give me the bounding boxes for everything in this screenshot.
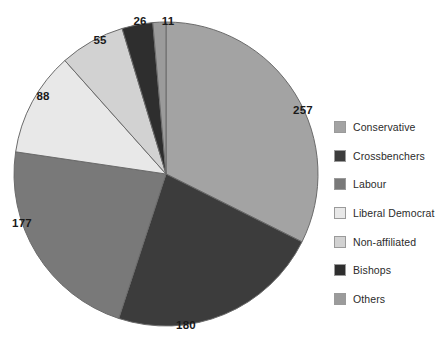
slice-value-label: 88 — [36, 90, 49, 102]
legend-swatch-icon — [334, 236, 346, 248]
legend-item-label: Bishops — [353, 264, 391, 276]
legend-item-label: Crossbenchers — [353, 150, 425, 162]
slice-value-label: 11 — [162, 15, 175, 27]
legend-item-label: Liberal Democrat — [353, 207, 435, 219]
legend-item[interactable]: Labour — [334, 170, 446, 199]
legend-item[interactable]: Crossbenchers — [334, 142, 446, 171]
legend-swatch-icon — [334, 150, 346, 162]
legend-item[interactable]: Liberal Democrat — [334, 199, 446, 228]
pie-plot-area: 25718017788552611 — [0, 0, 330, 337]
legend-swatch-icon — [334, 293, 346, 305]
slice-value-label: 177 — [12, 217, 32, 229]
legend-item[interactable]: Others — [334, 285, 446, 314]
pie-slice-group — [14, 22, 318, 326]
legend-item[interactable]: Bishops — [334, 256, 446, 285]
legend-swatch-icon — [334, 121, 346, 133]
legend-item[interactable]: Conservative — [334, 113, 446, 142]
legend-swatch-icon — [334, 207, 346, 219]
legend-item-label: Non-affiliated — [353, 236, 416, 248]
legend-swatch-icon — [334, 264, 346, 276]
slice-value-label: 26 — [133, 15, 146, 27]
pie-chart: 25718017788552611 ConservativeCrossbench… — [0, 0, 446, 337]
legend: ConservativeCrossbenchersLabourLiberal D… — [334, 113, 446, 313]
legend-item-label: Conservative — [353, 121, 415, 133]
legend-swatch-icon — [334, 178, 346, 190]
legend-item[interactable]: Non-affiliated — [334, 227, 446, 256]
slice-value-label: 180 — [176, 319, 196, 331]
slice-value-label: 257 — [293, 104, 313, 116]
slice-value-label: 55 — [93, 34, 106, 46]
legend-item-label: Others — [353, 293, 385, 305]
legend-item-label: Labour — [353, 178, 386, 190]
pie-svg — [0, 0, 330, 337]
